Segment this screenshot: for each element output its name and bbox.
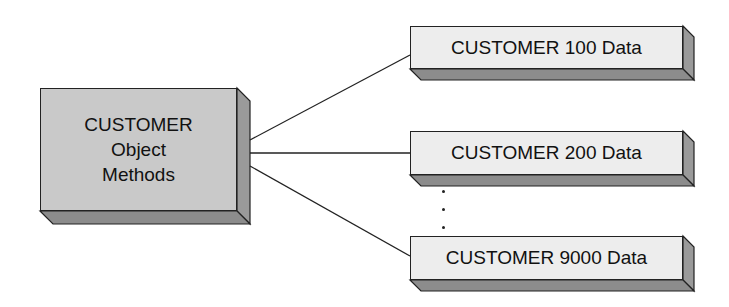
ellipsis-dot — [442, 208, 445, 211]
connector-100 — [250, 55, 410, 140]
data-box-label: CUSTOMER 100 Data — [451, 37, 642, 59]
data-box-label: CUSTOMER 200 Data — [451, 142, 642, 164]
connector-9000 — [250, 166, 410, 256]
ellipsis-dot — [442, 226, 445, 229]
data-box-label: CUSTOMER 9000 Data — [446, 247, 647, 269]
ellipsis-dot — [442, 190, 445, 193]
customer-200-data-box: CUSTOMER 200 Data — [410, 131, 683, 175]
main-box-line-1: CUSTOMER — [84, 112, 192, 137]
customer-100-data-box: CUSTOMER 100 Data — [410, 26, 683, 69]
main-box-bottom — [40, 211, 250, 224]
customer-9000-data-box: CUSTOMER 9000 Data — [410, 236, 683, 280]
main-box-line-2: Object — [111, 137, 166, 162]
customer-object-methods-box: CUSTOMER Object Methods — [40, 88, 237, 211]
main-box-side — [237, 88, 250, 224]
main-box-line-3: Methods — [102, 162, 175, 187]
